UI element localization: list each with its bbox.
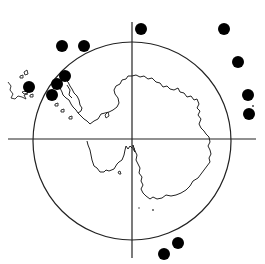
sample-location-dot <box>232 56 244 68</box>
island-outline <box>20 75 23 78</box>
sample-location-dot <box>23 81 35 93</box>
sample-location-dot <box>46 89 58 101</box>
map-canvas <box>0 0 265 264</box>
antarctica-map-figure: Polar stereographic map of Antarctica wi… <box>0 0 265 264</box>
sample-location-dot <box>243 108 255 120</box>
ross-ice-shelf-coast <box>87 141 135 172</box>
sample-location-dot <box>172 237 184 249</box>
island-outline <box>118 171 121 174</box>
island-dot <box>138 207 140 209</box>
sample-location-dot <box>56 40 68 52</box>
sample-location-dot <box>51 78 63 90</box>
antarctica-coastline <box>132 75 211 199</box>
island-dot <box>252 105 254 107</box>
antarctica-coastline-west <box>66 76 132 124</box>
sample-location-dots <box>23 23 255 260</box>
sample-location-dot <box>242 89 254 101</box>
sample-location-dot <box>218 23 230 35</box>
island-outline <box>24 70 28 75</box>
sample-location-dot <box>135 23 147 35</box>
island-outline <box>61 109 64 112</box>
island-dot <box>152 209 154 211</box>
island-outline <box>55 103 58 106</box>
sample-location-dot <box>158 248 170 260</box>
island-outline <box>69 116 72 119</box>
island-outline <box>30 94 33 97</box>
sample-location-dot <box>78 40 90 52</box>
